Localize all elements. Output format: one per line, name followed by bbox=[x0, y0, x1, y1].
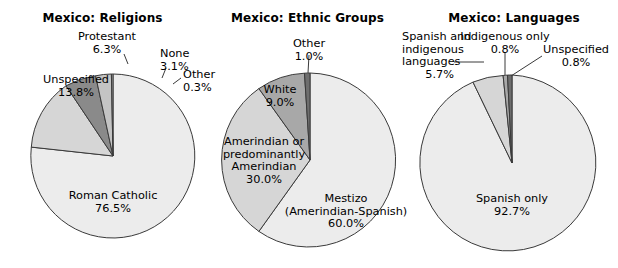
chart-panel-religions: Mexico: Religions Protestant 6.3% None 3… bbox=[0, 0, 205, 268]
label-other: Other 1.0% bbox=[267, 38, 351, 63]
chart-panel-ethnic-groups: Mexico: Ethnic Groups Other 1.0% White 9… bbox=[205, 0, 410, 268]
label-white: White 9.0% bbox=[247, 84, 313, 109]
chart-panel-languages: Mexico: Languages Spanish and indigenous… bbox=[410, 0, 618, 268]
label-protestant: Protestant 6.3% bbox=[59, 31, 155, 56]
pie-chart-figure: Mexico: Religions Protestant 6.3% None 3… bbox=[0, 0, 618, 268]
label-unspecified: Unspecified 13.8% bbox=[26, 74, 126, 99]
leader-line-other bbox=[173, 78, 181, 84]
label-amerindian: Amerindian or predominantly Amerindian 3… bbox=[207, 136, 321, 186]
label-roman-catholic: Roman Catholic 76.5% bbox=[48, 190, 178, 215]
label-spanish-indigenous: Spanish and indigenous languages 5.7% bbox=[402, 31, 454, 81]
label-mestizo: Mestizo (Amerindian-Spanish) 60.0% bbox=[283, 193, 409, 231]
label-spanish-only: Spanish only 92.7% bbox=[450, 193, 574, 218]
label-unspecified: Unspecified 0.8% bbox=[538, 44, 614, 69]
